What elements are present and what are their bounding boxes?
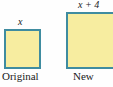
geometry-figure: x Original x + 4 New: [0, 0, 113, 87]
new-square: [66, 12, 113, 69]
original-square: [4, 29, 41, 69]
original-square-side-label: x: [18, 17, 22, 27]
new-square-caption: New: [73, 71, 94, 82]
original-square-caption: Original: [2, 71, 39, 82]
new-square-side-label: x + 4: [78, 0, 99, 10]
